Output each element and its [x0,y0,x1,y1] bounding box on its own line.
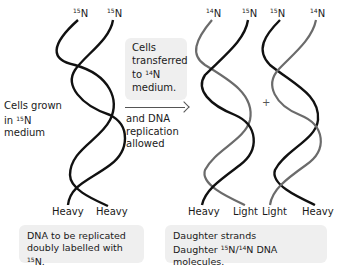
daughter2-bottom-label-2: Heavy [302,206,334,218]
daughter2-bottom-label-1: Light [262,206,287,218]
caption-daughters: Daughter strands Daughter 15N/14N DNA mo… [165,225,327,263]
parent-side-text: Cells grown in 15N medium [4,100,62,140]
daughter2-top-label-2: 14N [310,5,325,20]
daughter1-top-label-2: 15N [242,5,257,20]
parent-bottom-label-2: Heavy [96,206,128,218]
parent-strand-right [68,20,125,205]
daughter1-bottom-label-1: Heavy [188,206,220,218]
parent-top-label-1: 15N [73,5,88,20]
plus-sign: + [262,97,270,108]
transfer-box: Cells transferred to 14N medium. [125,38,187,100]
daughter2-strand-light [270,20,321,205]
daughter1-top-label-1: 14N [206,5,221,20]
daughter1-strand-heavy [202,20,254,205]
parent-bottom-label-1: Heavy [52,206,84,218]
arrow-shaft [125,107,185,108]
caption-parent: DNA to be replicated doubly labelled wit… [19,225,144,263]
parent-top-label-2: 15N [107,5,122,20]
daughter1-bottom-label-2: Light [233,206,258,218]
arrow-caption: and DNA replication allowed [126,113,179,151]
daughter2-top-label-1: 15N [270,5,285,20]
